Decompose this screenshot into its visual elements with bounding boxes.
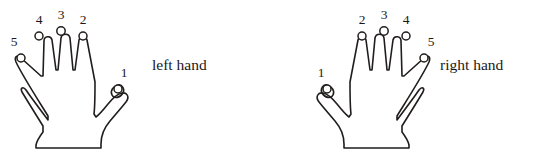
left-hand-caption: left hand bbox=[152, 56, 207, 73]
hands-diagram-svg: 1 2 3 4 5 left hand 1 2 3 4 5 right hand bbox=[0, 0, 533, 157]
left-hand-finger-number-2: 2 bbox=[80, 12, 87, 27]
right-hand-middle-finger-tip-circle bbox=[380, 27, 388, 35]
right-hand-thumb-tip-circle bbox=[323, 85, 331, 93]
right-hand-finger-number-1: 1 bbox=[318, 65, 325, 80]
left-hand-middle-finger-tip-circle bbox=[57, 27, 65, 35]
right-hand-little-finger-tip-circle bbox=[420, 54, 428, 62]
left-hand-little-finger-tip-circle bbox=[17, 54, 25, 62]
hand-fingering-diagram: 1 2 3 4 5 left hand 1 2 3 4 5 right hand bbox=[0, 0, 533, 157]
left-hand-finger-number-1: 1 bbox=[121, 65, 128, 80]
right-hand-ring-finger-tip-circle bbox=[402, 32, 410, 40]
right-hand-finger-number-2: 2 bbox=[359, 12, 366, 27]
right-hand-finger-number-4: 4 bbox=[403, 12, 410, 27]
right-hand-group: 1 2 3 4 5 right hand bbox=[317, 7, 503, 148]
left-hand-thumb-tip-circle bbox=[114, 85, 122, 93]
left-hand-ring-finger-tip-circle bbox=[35, 32, 43, 40]
left-hand-finger-number-3: 3 bbox=[58, 7, 65, 22]
left-hand-group: 1 2 3 4 5 left hand bbox=[11, 7, 207, 148]
left-hand-finger-number-4: 4 bbox=[36, 12, 43, 27]
right-hand-finger-number-5: 5 bbox=[428, 34, 435, 49]
right-hand-caption: right hand bbox=[440, 56, 504, 73]
left-hand-finger-number-5: 5 bbox=[11, 34, 18, 49]
right-hand-index-finger-tip-circle bbox=[358, 32, 366, 40]
left-hand-index-finger-tip-circle bbox=[79, 32, 87, 40]
right-hand-finger-number-3: 3 bbox=[381, 7, 388, 22]
